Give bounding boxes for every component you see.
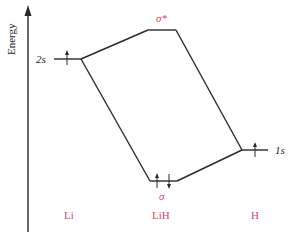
column-label-lih: LiH xyxy=(152,209,170,221)
connector-sigma-h1s xyxy=(177,150,242,181)
connector-li2s-sigma-star xyxy=(81,30,148,59)
column-label-h: H xyxy=(251,209,259,221)
h-1s-label: 1s xyxy=(275,144,285,156)
sigma-star-label: σ* xyxy=(156,12,167,24)
mo-diagram: Energy 2s σ* σ 1s Li LiH H xyxy=(0,0,299,240)
energy-axis-arrowhead-icon xyxy=(25,5,32,16)
li-2s-electron-up-icon xyxy=(65,50,69,65)
li-2s-label: 2s xyxy=(36,53,46,65)
column-label-li: Li xyxy=(64,209,74,221)
sigma-label: σ xyxy=(159,190,165,202)
connector-li2s-sigma xyxy=(81,59,150,181)
connector-sigma-star-h1s xyxy=(176,30,242,150)
energy-axis-label: Energy xyxy=(5,23,17,55)
